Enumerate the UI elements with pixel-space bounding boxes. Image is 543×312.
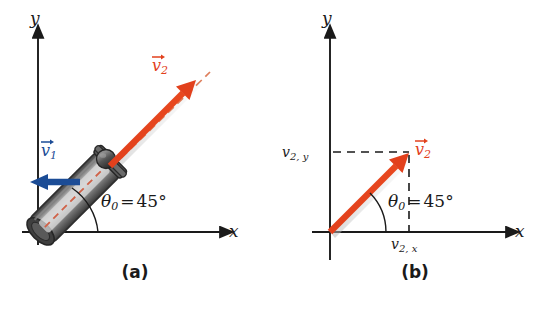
panel-a-theta-symbol: θ <box>101 191 111 211</box>
panel-b-angle-value: 45° <box>424 191 454 211</box>
figure-svg <box>0 0 543 312</box>
panel-a-vector-v2-label: v2 <box>152 58 168 76</box>
panel-b-component-x-label: v2, x <box>391 236 417 254</box>
panel-a-y-axis-label: y <box>30 8 40 28</box>
panel-a-angle-label: θ0=45° <box>101 191 167 213</box>
panel-a-angle-equals: = <box>118 191 136 211</box>
panel-a-vector-v2 <box>110 80 196 166</box>
vector-arrow-overbar-icon <box>152 53 165 60</box>
panel-a-vector-v1-label: v1 <box>41 143 57 161</box>
panel-a-angle-value: 45° <box>137 191 167 211</box>
panel-a-v2-subscript: 2 <box>161 64 168 77</box>
panel-b-y-axis-label: y <box>322 8 332 28</box>
panel-b-x-axis-label: x <box>515 221 525 241</box>
panel-b-comp-y-symbol: v <box>282 144 290 160</box>
vector-arrow-overbar-icon <box>41 138 54 145</box>
panel-b-vector-v2-label: v2 <box>415 142 431 160</box>
panel-b-group <box>312 36 508 260</box>
panel-b-angle-equals: = <box>405 191 423 211</box>
panel-a-x-axis-label: x <box>229 221 239 241</box>
panel-a-caption: (a) <box>95 262 175 282</box>
panel-b-comp-x-subscript: 2, x <box>399 243 417 254</box>
panel-b-component-y-label: v2, y <box>282 144 308 162</box>
panel-b-caption: (b) <box>375 262 455 282</box>
physics-figure: y x v2 v1 θ0=45° (a) y x v2 v2, y v2, x <box>0 0 543 312</box>
panel-b-v2-subscript: 2 <box>424 148 431 161</box>
panel-b-comp-y-subscript: 2, y <box>290 151 308 162</box>
vector-arrow-overbar-icon <box>415 137 428 144</box>
panel-b-angle-label: θ0=45° <box>388 191 454 213</box>
panel-a-v1-subscript: 1 <box>50 149 57 162</box>
panel-b-comp-x-symbol: v <box>391 236 399 252</box>
panel-b-theta-symbol: θ <box>388 191 398 211</box>
